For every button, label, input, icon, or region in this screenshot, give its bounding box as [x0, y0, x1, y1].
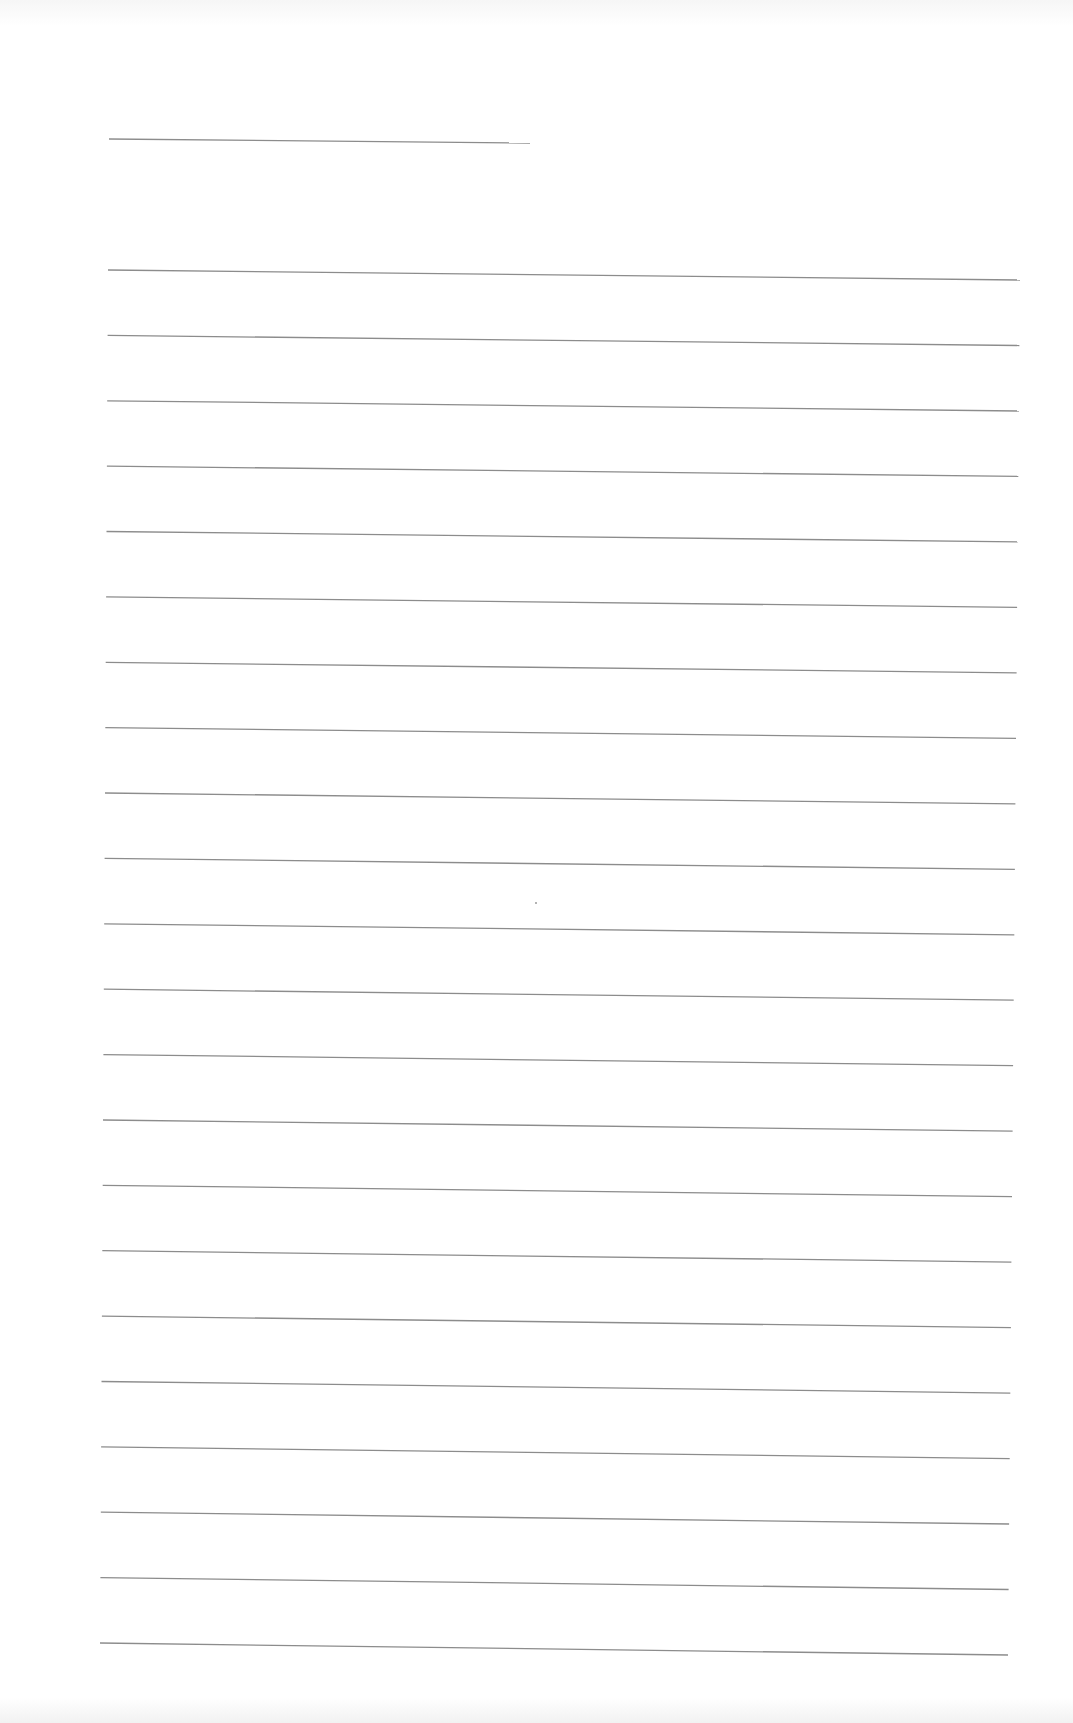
ruled-line: [108, 335, 1020, 345]
bottom-edge-bleedthrough: [0, 1697, 1073, 1723]
ruled-line: [101, 1447, 1010, 1459]
ruled-line: [106, 662, 1017, 673]
lined-paper-page: [0, 0, 1073, 1723]
ruled-line: [105, 858, 1015, 869]
ruled-line: [106, 597, 1017, 608]
ruled-line: [104, 924, 1014, 935]
ruled-line: [105, 793, 1015, 804]
ruled-line: [103, 1185, 1012, 1196]
ruled-line: [107, 532, 1018, 542]
ruled-line: [105, 728, 1016, 739]
header-rule: [109, 139, 530, 143]
ruled-line: [100, 1578, 1008, 1590]
ruled-line: [103, 1120, 1013, 1131]
body-rules-group: [100, 270, 1020, 1655]
ruled-line: [104, 989, 1014, 1000]
stray-mark: [535, 902, 537, 904]
ruled-line: [101, 1512, 1009, 1524]
ruled-lines: [0, 0, 1073, 1723]
ruled-line: [103, 1055, 1013, 1066]
ruled-line: [102, 1382, 1011, 1394]
ruled-line: [100, 1643, 1008, 1655]
ruled-line: [107, 466, 1018, 476]
ruled-line: [108, 270, 1020, 280]
ruled-line: [102, 1316, 1011, 1328]
ruled-line: [102, 1251, 1011, 1262]
ruled-line: [107, 401, 1019, 411]
